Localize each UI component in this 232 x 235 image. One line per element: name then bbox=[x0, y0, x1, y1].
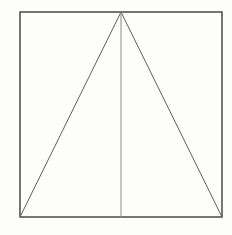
triangle-right-side bbox=[121, 12, 222, 217]
triangle-left-side bbox=[20, 12, 121, 217]
geometry-figure bbox=[0, 0, 232, 235]
figure-canvas bbox=[0, 0, 232, 235]
